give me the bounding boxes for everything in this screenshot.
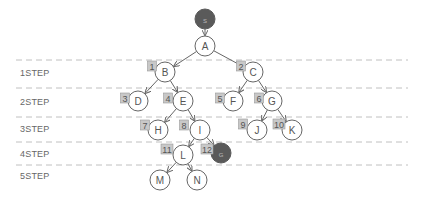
tree-node-g: G: [262, 91, 282, 111]
svg-text:B: B: [162, 67, 169, 78]
svg-text:J: J: [255, 125, 260, 136]
tree-node-e: E: [173, 91, 193, 111]
step-label: 5STEP: [20, 171, 50, 181]
tree-node-s: S: [195, 9, 215, 29]
svg-text:I: I: [199, 125, 202, 136]
svg-text:C: C: [249, 67, 256, 78]
tree-node-l: L: [173, 145, 193, 165]
order-badge: 7: [141, 120, 150, 131]
step-label: 1STEP: [20, 68, 50, 78]
tree-node-m: M: [150, 170, 170, 190]
order-badge: 11: [161, 144, 173, 155]
tree-node-d: D: [128, 91, 148, 111]
tree-node-goal: G: [211, 143, 231, 163]
svg-text:12: 12: [202, 145, 212, 155]
step-label: 2STEP: [20, 97, 50, 107]
tree-node-n: N: [187, 170, 207, 190]
svg-text:4: 4: [165, 94, 170, 104]
tree-nodes: SABCDEFGHIJKLGMN: [128, 9, 302, 190]
tree-edge: [174, 51, 196, 66]
tree-edge: [167, 162, 176, 172]
svg-text:E: E: [180, 96, 187, 107]
svg-text:6: 6: [256, 94, 261, 104]
svg-text:7: 7: [142, 121, 147, 131]
tree-edge: [258, 80, 265, 91]
order-badge: 4: [164, 93, 173, 104]
order-badge: 5: [216, 93, 225, 104]
svg-text:M: M: [156, 175, 164, 186]
tree-edge: [165, 109, 176, 122]
svg-text:G: G: [219, 152, 224, 158]
tree-node-a: A: [195, 36, 215, 56]
svg-text:A: A: [202, 41, 209, 52]
step-label: 3STEP: [20, 124, 50, 134]
tree-edge: [262, 110, 267, 120]
svg-text:11: 11: [162, 145, 171, 155]
svg-text:5: 5: [217, 94, 222, 104]
order-badge: 1: [148, 61, 157, 72]
tree-node-h: H: [148, 120, 168, 140]
order-badge: 9: [239, 119, 248, 130]
order-badge: 12: [201, 144, 213, 155]
svg-text:10: 10: [274, 120, 284, 130]
tree-node-f: F: [223, 91, 243, 111]
tree-edge: [145, 79, 158, 93]
tree-node-c: C: [243, 62, 263, 82]
tree-edge: [188, 110, 194, 121]
svg-text:S: S: [203, 18, 207, 24]
step-label: 4STEP: [20, 149, 50, 159]
svg-text:9: 9: [240, 120, 245, 130]
svg-text:3: 3: [122, 94, 127, 104]
search-tree-diagram: SABCDEFGHIJKLGMN 123456789101112: [0, 0, 422, 199]
svg-text:1: 1: [149, 62, 154, 72]
tree-edge: [239, 80, 247, 92]
tree-node-b: B: [155, 62, 175, 82]
order-badge: 6: [255, 93, 264, 104]
svg-text:2: 2: [238, 62, 243, 72]
svg-text:G: G: [268, 96, 276, 107]
svg-text:K: K: [289, 125, 296, 136]
order-badge: 3: [121, 93, 130, 104]
order-badge: 8: [180, 120, 189, 131]
svg-text:F: F: [230, 96, 236, 107]
svg-text:H: H: [154, 125, 161, 136]
tree-node-j: J: [247, 120, 267, 140]
svg-text:L: L: [180, 150, 186, 161]
tree-node-i: I: [190, 120, 210, 140]
svg-text:8: 8: [181, 121, 186, 131]
svg-text:D: D: [134, 96, 141, 107]
order-badge: 2: [237, 61, 246, 72]
tree-edge: [170, 80, 177, 91]
order-badge: 10: [273, 119, 285, 130]
svg-text:N: N: [193, 175, 200, 186]
